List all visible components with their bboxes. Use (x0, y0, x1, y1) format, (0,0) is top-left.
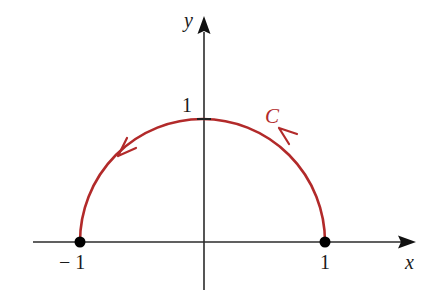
direction-arrow-right-icon (279, 128, 297, 144)
y-axis-label: y (182, 9, 193, 32)
curve-c (80, 119, 325, 242)
x-axis-label: x (404, 251, 414, 273)
contour-diagram: y x 1 − 1 1 C (0, 0, 446, 304)
y-tick-label-one: 1 (182, 94, 192, 116)
curve-label: C (265, 104, 280, 128)
point-pos-one (320, 237, 331, 248)
x-tick-label-pos-one: 1 (320, 251, 330, 273)
point-neg-one (75, 237, 86, 248)
y-axis-arrowhead-icon (198, 16, 211, 34)
x-tick-label-neg-one: − 1 (59, 251, 85, 273)
